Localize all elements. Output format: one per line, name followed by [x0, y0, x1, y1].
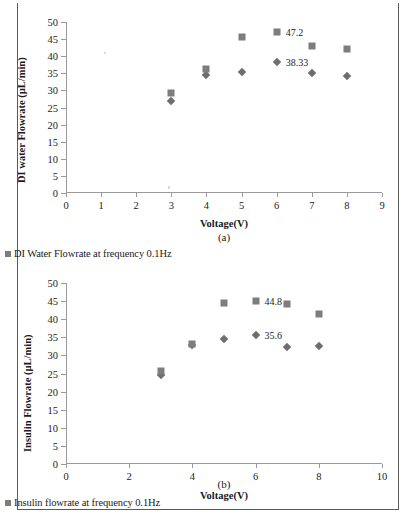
y-tick-label: 30 — [48, 85, 59, 96]
square-marker-icon — [5, 251, 11, 257]
data-point-square — [157, 367, 164, 374]
data-point-square — [189, 340, 196, 347]
y-tick-label: 50 — [48, 278, 59, 289]
y-tick-label: 40 — [48, 314, 59, 325]
y-tick — [61, 90, 66, 91]
data-point-square — [221, 299, 228, 306]
x-tick-label: 1 — [98, 200, 103, 211]
x-tick — [312, 193, 313, 197]
x-tick — [382, 193, 383, 197]
y-axis-line-b — [66, 283, 67, 464]
x-axis-title-a: Voltage(V) — [66, 218, 382, 229]
x-axis-line-b — [66, 463, 382, 464]
y-tick-label: 15 — [48, 136, 59, 147]
data-point-square — [284, 300, 291, 307]
legend-item-b-1: Insulin flowrate at frequency 0.1Hz — [5, 497, 160, 508]
data-point-square — [203, 66, 210, 73]
y-tick — [61, 446, 66, 447]
y-tick — [61, 73, 66, 74]
data-point-diamond — [283, 343, 291, 351]
data-point-diamond — [308, 69, 316, 77]
x-tick — [171, 193, 172, 197]
y-tick-label: 0 — [53, 459, 58, 470]
data-point-diamond — [343, 72, 351, 80]
y-tick — [61, 125, 66, 126]
x-tick — [136, 193, 137, 197]
y-tick — [61, 428, 66, 429]
x-tick-label: 7 — [309, 200, 314, 211]
y-tick-label: 0 — [53, 188, 58, 199]
y-tick-label: 25 — [48, 102, 59, 113]
y-tick-label: 30 — [48, 350, 59, 361]
scan-speck — [104, 52, 106, 54]
x-tick — [206, 193, 207, 197]
y-tick-label: 10 — [48, 153, 59, 164]
y-tick — [61, 319, 66, 320]
data-point-diamond — [237, 68, 245, 76]
y-tick — [61, 176, 66, 177]
data-point-diamond — [167, 96, 175, 104]
x-tick-label: 6 — [274, 200, 279, 211]
data-point-square — [308, 42, 315, 49]
data-point-diamond — [315, 342, 323, 350]
y-tick — [61, 410, 66, 411]
x-axis-line-a — [66, 192, 382, 193]
x-tick — [66, 464, 67, 468]
y-axis-line-a — [66, 22, 67, 193]
x-tick — [319, 464, 320, 468]
y-tick — [61, 22, 66, 23]
y-axis-title-b: Insulin Flowrate (µL/min) — [22, 335, 33, 452]
data-label: 44.8 — [265, 295, 283, 306]
y-tick — [61, 374, 66, 375]
x-tick — [347, 193, 348, 197]
data-point-diamond — [251, 331, 259, 339]
data-point-square — [273, 28, 280, 35]
x-tick-label: 3 — [169, 200, 174, 211]
x-tick — [277, 193, 278, 197]
y-tick-label: 20 — [48, 386, 59, 397]
x-tick-label: 5 — [239, 200, 244, 211]
data-label: 38.33 — [286, 56, 309, 67]
data-label: 35.6 — [265, 330, 283, 341]
data-point-square — [343, 46, 350, 53]
x-tick-label: 9 — [379, 200, 384, 211]
scan-speck — [168, 186, 170, 189]
legend-label: Insulin flowrate at frequency 0.1Hz — [14, 497, 160, 508]
y-tick — [61, 301, 66, 302]
x-tick-label: 0 — [63, 200, 68, 211]
y-tick — [61, 39, 66, 40]
x-tick — [242, 193, 243, 197]
y-tick-label: 5 — [53, 440, 58, 451]
y-tick-label: 15 — [48, 404, 59, 415]
data-point-square — [315, 311, 322, 318]
y-tick-label: 45 — [48, 296, 59, 307]
y-tick-label: 10 — [48, 422, 59, 433]
data-point-diamond — [220, 335, 228, 343]
y-tick-label: 35 — [48, 68, 59, 79]
legend-label: DI Water Flowrate at frequency 0.1Hz — [14, 248, 171, 259]
x-tick — [256, 464, 257, 468]
x-tick — [382, 464, 383, 468]
data-point-square — [238, 33, 245, 40]
y-tick — [61, 392, 66, 393]
x-tick — [129, 464, 130, 468]
y-axis-title-a: DI water Flowrate (µL/min) — [16, 57, 27, 183]
y-tick — [61, 142, 66, 143]
data-label: 47.2 — [286, 26, 304, 37]
y-tick-label: 45 — [48, 34, 59, 45]
y-tick-label: 40 — [48, 51, 59, 62]
x-tick — [66, 193, 67, 197]
y-tick-label: 20 — [48, 119, 59, 130]
data-point-square — [252, 297, 259, 304]
y-tick — [61, 283, 66, 284]
data-point-square — [168, 90, 175, 97]
legend-item-a-1: DI Water Flowrate at frequency 0.1Hz — [5, 248, 171, 259]
square-marker-icon — [5, 500, 11, 506]
data-point-diamond — [272, 58, 280, 66]
y-tick-label: 5 — [53, 170, 58, 181]
x-tick — [101, 193, 102, 197]
x-tick-label: 4 — [204, 200, 209, 211]
panel-tag-a: (a) — [66, 231, 382, 243]
y-tick-label: 50 — [48, 17, 59, 28]
panel-tag-b: (b) — [66, 478, 382, 490]
